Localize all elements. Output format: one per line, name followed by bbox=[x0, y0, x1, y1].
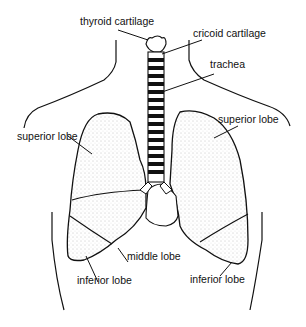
left-lung bbox=[170, 111, 248, 264]
label-superior-lobe-left: superior lobe bbox=[218, 114, 279, 125]
label-thyroid-cartilage: thyroid cartilage bbox=[80, 16, 154, 27]
trachea-shape bbox=[140, 36, 172, 194]
label-inferior-lobe-left: inferior lobe bbox=[190, 274, 245, 285]
label-cricoid-cartilage: cricoid cartilage bbox=[193, 28, 266, 39]
label-middle-lobe: middle lobe bbox=[127, 251, 181, 262]
right-lung bbox=[67, 113, 146, 261]
label-inferior-lobe-right: inferior lobe bbox=[77, 275, 132, 286]
label-superior-lobe-right: superior lobe bbox=[17, 131, 78, 142]
lungs-diagram bbox=[0, 0, 306, 327]
label-trachea: trachea bbox=[210, 59, 245, 70]
